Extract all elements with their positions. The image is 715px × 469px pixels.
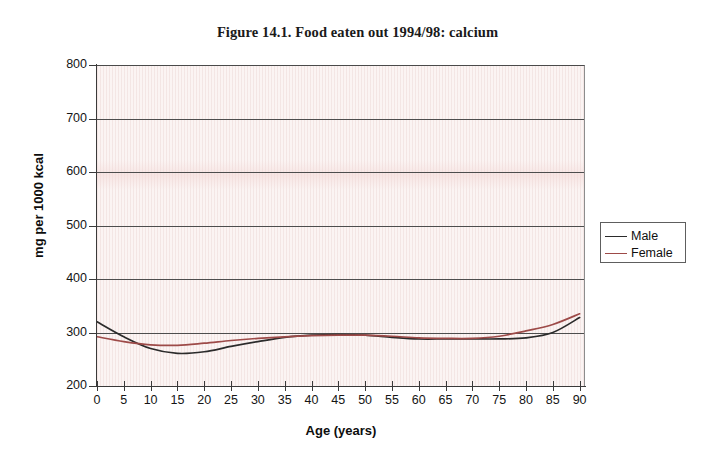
x-axis-tick-label: 85 [538, 393, 568, 407]
x-axis-tick [124, 381, 125, 391]
legend-item-female[interactable]: Female [605, 245, 673, 261]
x-axis-tick-label: 10 [136, 393, 166, 407]
x-axis-tick [177, 381, 178, 391]
x-axis-tick [97, 381, 98, 391]
x-axis-tick [526, 381, 527, 391]
legend: MaleFemale [600, 222, 686, 263]
y-axis-tick-label: 500 [47, 218, 87, 232]
legend-swatch-female [605, 253, 627, 254]
x-axis-tick [580, 381, 581, 391]
x-axis-tick [258, 381, 259, 391]
y-axis-tick [89, 172, 97, 173]
x-axis-tick [231, 381, 232, 391]
x-axis-tick-label: 20 [189, 393, 219, 407]
y-axis-tick [89, 279, 97, 280]
x-axis-tick-label: 50 [350, 393, 380, 407]
x-axis-tick-label: 90 [565, 393, 595, 407]
x-axis-tick [285, 381, 286, 391]
legend-label: Female [631, 247, 673, 260]
y-axis-tick [89, 119, 97, 120]
x-axis-tick-label: 70 [457, 393, 487, 407]
legend-label: Male [631, 230, 658, 243]
y-axis-tick [89, 333, 97, 334]
y-axis-tick-label: 300 [47, 325, 87, 339]
x-axis-tick-label: 40 [297, 393, 327, 407]
x-axis-tick [365, 381, 366, 391]
x-axis-tick-label: 5 [109, 393, 139, 407]
x-axis-tick [392, 381, 393, 391]
figure-container: Figure 14.1. Food eaten out 1994/98: cal… [0, 0, 715, 469]
x-axis-tick [419, 381, 420, 391]
x-axis-tick-label: 15 [162, 393, 192, 407]
x-axis-tick [472, 381, 473, 391]
legend-swatch-male [605, 236, 627, 237]
x-axis-tick-label: 55 [377, 393, 407, 407]
x-axis-tick [151, 381, 152, 391]
x-axis-tick [338, 381, 339, 391]
x-axis-line [96, 386, 586, 387]
y-axis-tick [89, 65, 97, 66]
x-axis-tick [553, 381, 554, 391]
x-axis-tick [204, 381, 205, 391]
page-title: Figure 14.1. Food eaten out 1994/98: cal… [0, 24, 715, 41]
x-axis-tick-label: 35 [270, 393, 300, 407]
plot-area [97, 65, 585, 386]
x-axis-tick [446, 381, 447, 391]
x-axis-tick-label: 80 [511, 393, 541, 407]
x-axis-tick-label: 75 [484, 393, 514, 407]
x-axis-tick [499, 381, 500, 391]
y-axis-tick-label: 400 [47, 271, 87, 285]
y-axis-tick-label: 700 [47, 111, 87, 125]
x-axis-tick-label: 60 [404, 393, 434, 407]
x-axis-tick-label: 30 [243, 393, 273, 407]
y-axis-tick-label: 800 [47, 57, 87, 71]
series-lines [97, 65, 585, 386]
x-axis-tick [312, 381, 313, 391]
y-axis-tick [89, 226, 97, 227]
x-axis-tick-label: 25 [216, 393, 246, 407]
x-axis-tick-label: 45 [323, 393, 353, 407]
y-axis-tick [89, 386, 97, 387]
x-axis-tick-label: 65 [431, 393, 461, 407]
x-axis-title: Age (years) [97, 423, 585, 438]
legend-item-male[interactable]: Male [605, 228, 658, 244]
y-axis-tick-label: 200 [47, 378, 87, 392]
series-line-female [97, 314, 580, 346]
y-axis-title: mg per 1000 kcal [31, 106, 46, 306]
x-axis-tick-label: 0 [82, 393, 112, 407]
y-axis-tick-label: 600 [47, 164, 87, 178]
